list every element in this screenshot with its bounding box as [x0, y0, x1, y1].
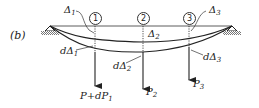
right-pin-support	[223, 26, 241, 35]
load-label-2: P2	[146, 87, 157, 99]
incremental-deflection-label-3: dΔ3	[203, 52, 221, 64]
incremental-deflection-label-1: dΔ1	[60, 46, 78, 58]
deflection-label-3: Δ3	[209, 5, 221, 17]
node-marker-1: 1	[89, 12, 102, 25]
incremental-deflection-label-2: dΔ2	[113, 61, 131, 73]
deflection-label-1: Δ1	[64, 5, 76, 17]
node-marker-3: 3	[183, 12, 196, 25]
load-arrows	[95, 47, 189, 89]
node-marker-2: 2	[137, 12, 150, 25]
load-label-3: P3	[193, 79, 204, 91]
load-label-1: P+dP1	[80, 91, 113, 103]
deflection-label-2: Δ2	[148, 29, 160, 41]
panel-label: (b)	[10, 30, 26, 41]
